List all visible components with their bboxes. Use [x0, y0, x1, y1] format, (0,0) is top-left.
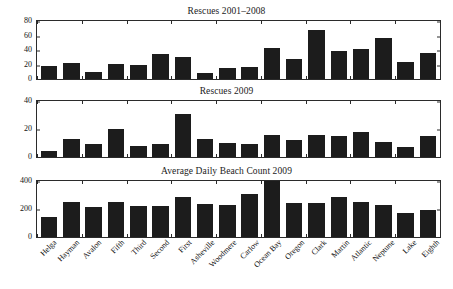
y-tick-mark — [37, 130, 40, 131]
y-tick-mark — [37, 36, 40, 37]
x-tick-mark-bottom — [306, 76, 307, 79]
bar — [63, 139, 79, 157]
x-tick-mark-bottom — [440, 234, 441, 237]
bar — [286, 59, 302, 79]
bar — [152, 144, 168, 157]
y-tick-label: 40 — [6, 46, 32, 54]
bar-slot — [149, 21, 171, 79]
x-tick-mark-top — [395, 101, 396, 104]
y-axis-ticks: 02040 — [6, 100, 32, 158]
bar-slot — [172, 181, 194, 237]
bar — [308, 135, 324, 157]
bar — [130, 65, 146, 80]
x-tick-mark-bottom — [82, 76, 83, 79]
bar — [353, 202, 369, 237]
bar-slot — [216, 181, 238, 237]
x-tick-mark-bottom — [306, 234, 307, 237]
bar — [197, 204, 213, 237]
x-tick-mark-bottom — [171, 234, 172, 237]
bar — [420, 53, 436, 79]
x-tick-mark-top — [261, 21, 262, 24]
x-tick-mark-bottom — [216, 76, 217, 79]
bar — [353, 49, 369, 79]
bar-slot — [83, 21, 105, 79]
x-tick-mark-top — [82, 101, 83, 104]
x-tick-mark-top — [350, 21, 351, 24]
x-tick-mark-bottom — [350, 234, 351, 237]
bar — [241, 67, 257, 79]
bar-slot — [350, 181, 372, 237]
bar-slot — [261, 21, 283, 79]
x-tick-mark-top — [127, 181, 128, 184]
y-axis-ticks: 020406080 — [6, 20, 32, 80]
x-tick-mark-bottom — [440, 154, 441, 157]
bar — [175, 197, 191, 237]
bar — [241, 144, 257, 157]
y-tick-label: 400 — [2, 177, 32, 185]
bar-slot — [172, 21, 194, 79]
x-tick-mark-top — [37, 181, 38, 184]
panel-title: Rescues 2001–2008 — [0, 6, 453, 17]
plot-area — [36, 20, 441, 80]
bar — [219, 68, 235, 79]
x-tick-label: Eighth — [420, 238, 441, 259]
bar-slot — [60, 181, 82, 237]
bar-slot — [239, 101, 261, 157]
x-tick-label: Third — [130, 238, 149, 257]
bar — [152, 54, 168, 79]
x-tick-mark-top — [440, 181, 441, 184]
bar-slot — [239, 181, 261, 237]
bar — [264, 48, 280, 79]
bar — [130, 206, 146, 237]
bar — [308, 30, 324, 79]
bar-slot — [350, 101, 372, 157]
y-tick-mark-right — [437, 65, 440, 66]
bar — [63, 202, 79, 237]
x-tick-mark-bottom — [171, 76, 172, 79]
bar-slot — [105, 181, 127, 237]
x-tick-mark-top — [37, 21, 38, 24]
y-tick-mark — [37, 210, 40, 211]
x-tick-mark-bottom — [171, 154, 172, 157]
x-tick-mark-top — [82, 21, 83, 24]
bar-series — [37, 181, 440, 237]
x-tick-mark-top — [261, 181, 262, 184]
bar-slot — [417, 101, 439, 157]
x-tick-label: Neptune — [371, 238, 397, 264]
x-tick-mark-bottom — [395, 234, 396, 237]
bar-slot — [395, 101, 417, 157]
bar — [308, 203, 324, 237]
y-tick-mark-right — [437, 130, 440, 131]
y-tick-label: 20 — [6, 61, 32, 69]
x-tick-mark-top — [216, 101, 217, 104]
x-axis-labels: HelgaHaymanAvalonFifthThirdSecondFirstAs… — [0, 238, 453, 289]
y-tick-label: 0 — [6, 153, 32, 161]
bar — [264, 181, 280, 237]
y-tick-mark-right — [437, 210, 440, 211]
x-tick-mark-bottom — [440, 76, 441, 79]
x-tick-mark-top — [306, 101, 307, 104]
bar-slot — [149, 101, 171, 157]
x-tick-mark-top — [171, 21, 172, 24]
bar-slot — [395, 21, 417, 79]
bar-slot — [239, 21, 261, 79]
bar — [397, 62, 413, 79]
x-tick-mark-top — [395, 21, 396, 24]
bar — [41, 66, 57, 79]
bar — [241, 194, 257, 237]
bar-slot — [172, 101, 194, 157]
x-tick-mark-bottom — [216, 154, 217, 157]
bar-slot — [372, 21, 394, 79]
bar-slot — [60, 101, 82, 157]
bar-series — [37, 101, 440, 157]
bar — [41, 151, 57, 157]
x-tick-label: Oregon — [283, 238, 306, 261]
bar — [286, 203, 302, 237]
bar-slot — [105, 101, 127, 157]
x-tick-label: Hayman — [56, 238, 82, 264]
x-tick-mark-bottom — [261, 154, 262, 157]
bar-slot — [216, 21, 238, 79]
y-tick-label: 200 — [2, 205, 32, 213]
x-tick-label: First — [177, 238, 194, 255]
x-tick-mark-top — [37, 101, 38, 104]
